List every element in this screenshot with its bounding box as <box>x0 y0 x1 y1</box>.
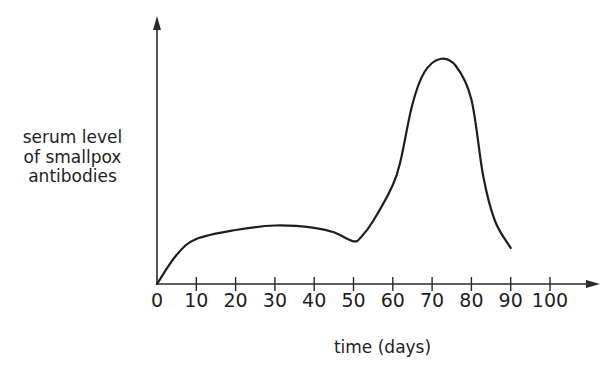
x-axis-arrow-icon <box>586 280 600 288</box>
antibody-level-curve <box>157 59 511 284</box>
x-tick-label: 70 <box>420 289 444 311</box>
x-tick-labels: 0102030405060708090100 <box>151 289 568 311</box>
x-tick-label: 40 <box>302 289 326 311</box>
y-axis-arrow-icon <box>153 16 161 30</box>
x-axis-label: time (days) <box>300 337 465 357</box>
x-tick-label: 60 <box>381 289 405 311</box>
x-tick-label: 30 <box>263 289 287 311</box>
x-tick-label: 50 <box>341 289 365 311</box>
y-axis-label-line-3: antibodies <box>10 167 135 187</box>
y-axis-label-line-2: of smallpox <box>10 148 135 168</box>
x-tick-label: 20 <box>224 289 248 311</box>
x-tick-label: 10 <box>184 289 208 311</box>
x-tick-label: 0 <box>151 289 163 311</box>
x-tick-label: 80 <box>459 289 483 311</box>
line-chart: 0102030405060708090100 <box>0 0 615 388</box>
y-axis-label-line-1: serum level <box>10 128 135 148</box>
x-tick-label: 100 <box>532 289 568 311</box>
y-axis-label: serum level of smallpox antibodies <box>10 128 135 187</box>
x-tick-label: 90 <box>499 289 523 311</box>
axes: 0102030405060708090100 <box>151 16 600 311</box>
